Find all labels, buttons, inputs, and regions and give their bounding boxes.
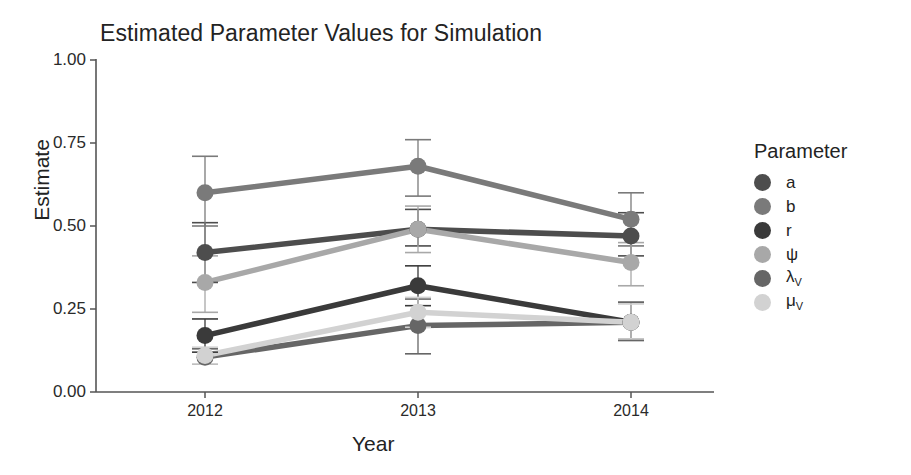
legend-item-label: a xyxy=(786,174,795,191)
legend: Parameter abrψλVμV xyxy=(754,140,904,316)
legend-item-label: b xyxy=(786,198,795,215)
legend-item-label-subscript: V xyxy=(795,277,802,289)
x-axis-tick-label: 2012 xyxy=(165,402,245,420)
data-point-a-2012 xyxy=(197,244,214,261)
data-point-mu_v-2012 xyxy=(197,347,214,364)
legend-item-label-base: λ xyxy=(786,267,795,286)
legend-key-circle-icon xyxy=(754,174,771,191)
x-axis-tick-label: 2014 xyxy=(591,402,671,420)
data-point-a-2014 xyxy=(623,227,640,244)
data-point-psi-2013 xyxy=(410,221,427,238)
legend-item[interactable]: a xyxy=(754,172,904,193)
legend-key-circle-icon xyxy=(754,222,771,239)
legend-item-label: r xyxy=(786,222,792,239)
legend-item[interactable]: r xyxy=(754,220,904,241)
legend-item-label: μV xyxy=(786,292,803,312)
data-point-mu_v-2014 xyxy=(623,314,640,331)
y-axis-tick-label: 0.50 xyxy=(30,216,86,236)
legend-item-label: λV xyxy=(786,268,802,288)
data-point-b-2013 xyxy=(410,158,427,175)
legend-key-circle-icon xyxy=(754,198,771,215)
chart-figure: Estimated Parameter Values for Simulatio… xyxy=(0,0,911,475)
y-axis-tick-label: 0.25 xyxy=(30,299,86,319)
data-point-mu_v-2013 xyxy=(410,304,427,321)
data-point-b-2014 xyxy=(623,211,640,228)
legend-item[interactable]: b xyxy=(754,196,904,217)
y-axis-tick-label: 0.00 xyxy=(30,382,86,402)
legend-title: Parameter xyxy=(754,140,904,163)
y-axis-tick-label: 0.75 xyxy=(30,133,86,153)
legend-item-label: ψ xyxy=(786,246,798,263)
y-axis-title: Estimate xyxy=(30,100,54,260)
legend-item[interactable]: λV xyxy=(754,268,904,289)
legend-item[interactable]: ψ xyxy=(754,244,904,265)
legend-key-circle-icon xyxy=(754,294,771,311)
x-axis-title: Year xyxy=(352,432,394,456)
legend-key-circle-icon xyxy=(754,270,771,287)
legend-items: abrψλVμV xyxy=(754,172,904,313)
data-point-b-2012 xyxy=(197,184,214,201)
data-point-psi-2014 xyxy=(623,254,640,271)
legend-item-label-base: μ xyxy=(786,291,796,310)
legend-key-circle-icon xyxy=(754,246,771,263)
legend-item-label-subscript: V xyxy=(796,301,803,313)
legend-item[interactable]: μV xyxy=(754,292,904,313)
y-axis-tick-label: 1.00 xyxy=(30,50,86,70)
data-point-r-2012 xyxy=(197,327,214,344)
data-point-psi-2012 xyxy=(197,274,214,291)
data-point-r-2013 xyxy=(410,277,427,294)
x-axis-tick-label: 2013 xyxy=(378,402,458,420)
